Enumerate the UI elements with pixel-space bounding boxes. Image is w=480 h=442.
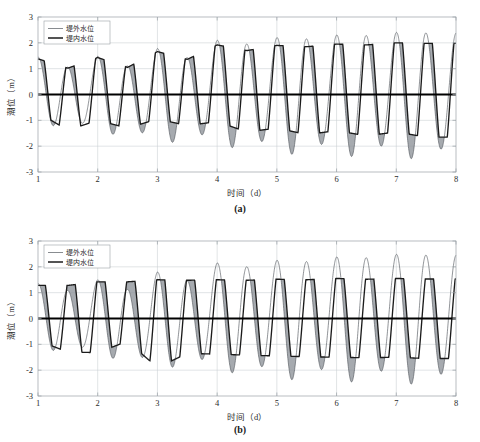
x-tick-label: 6 bbox=[334, 398, 338, 408]
x-tick-label: 5 bbox=[275, 174, 279, 184]
x-tick-label: 7 bbox=[394, 174, 398, 184]
legend[interactable]: 堤外水位堤内水位 bbox=[44, 245, 110, 268]
x-tick-label: 2 bbox=[96, 398, 100, 408]
y-tick-label: 3 bbox=[29, 236, 33, 246]
subplot-a: 123456783210-1-2-3时间（d）潮位（m）堤外水位堤内水位 bbox=[0, 0, 480, 200]
legend[interactable]: 堤外水位堤内水位 bbox=[44, 21, 110, 44]
y-tick-label: 0 bbox=[29, 314, 33, 324]
y-tick-label: 2 bbox=[29, 38, 33, 48]
series-inner-water-level bbox=[38, 43, 456, 137]
x-tick-label: 3 bbox=[155, 398, 159, 408]
y-tick-label: -2 bbox=[26, 365, 33, 375]
subplot-a-canvas: 123456783210-1-2-3时间（d）潮位（m）堤外水位堤内水位 bbox=[0, 0, 480, 200]
x-tick-label: 1 bbox=[36, 398, 40, 408]
legend-label: 堤外水位 bbox=[66, 248, 94, 257]
y-tick-label: 1 bbox=[29, 288, 33, 298]
x-tick-label: 5 bbox=[275, 398, 279, 408]
y-axis-label: 潮位（m） bbox=[6, 297, 16, 340]
legend-label: 堤内水位 bbox=[66, 34, 94, 43]
y-tick-label: 1 bbox=[29, 64, 33, 74]
y-tick-label: -2 bbox=[26, 141, 33, 151]
subplot-a-caption: (a) bbox=[0, 203, 480, 214]
y-tick-label: 3 bbox=[29, 12, 33, 22]
subplot-b: 123456783210-1-2-3时间（d）潮位（m）堤外水位堤内水位 bbox=[0, 224, 480, 424]
x-tick-label: 1 bbox=[36, 174, 40, 184]
y-tick-label: -1 bbox=[26, 339, 33, 349]
x-tick-label: 4 bbox=[215, 398, 220, 408]
series-inner-water-level bbox=[38, 278, 456, 360]
x-tick-label: 3 bbox=[155, 174, 159, 184]
y-tick-label: 0 bbox=[29, 90, 33, 100]
subplot-b-canvas: 123456783210-1-2-3时间（d）潮位（m）堤外水位堤内水位 bbox=[0, 224, 480, 424]
figure-container: 123456783210-1-2-3时间（d）潮位（m）堤外水位堤内水位 (a)… bbox=[0, 0, 480, 442]
x-tick-label: 6 bbox=[334, 174, 338, 184]
x-tick-label: 8 bbox=[454, 174, 458, 184]
x-tick-label: 2 bbox=[96, 174, 100, 184]
legend-label: 堤外水位 bbox=[66, 24, 94, 33]
x-tick-label: 8 bbox=[454, 398, 458, 408]
x-tick-label: 4 bbox=[215, 174, 220, 184]
x-axis-label: 时间（d） bbox=[227, 412, 267, 422]
y-tick-label: -3 bbox=[26, 167, 33, 177]
x-tick-label: 7 bbox=[394, 398, 398, 408]
legend-label: 堤内水位 bbox=[66, 258, 94, 267]
subplot-b-caption: (b) bbox=[0, 424, 480, 435]
y-tick-label: -3 bbox=[26, 391, 33, 401]
x-axis-label: 时间（d） bbox=[227, 188, 267, 198]
y-tick-label: 2 bbox=[29, 262, 33, 272]
y-tick-label: -1 bbox=[26, 115, 33, 125]
y-axis-label: 潮位（m） bbox=[6, 73, 16, 116]
